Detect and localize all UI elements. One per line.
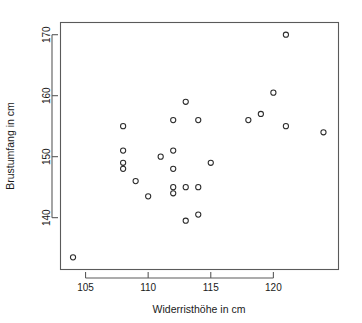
y-tick-label: 160 <box>41 87 52 104</box>
x-tick-label: 105 <box>77 282 94 293</box>
plot-canvas: 140150160170 105110115120 Widerristhöhe … <box>0 0 362 323</box>
y-tick-label: 140 <box>41 209 52 226</box>
y-tick-label: 170 <box>41 26 52 43</box>
y-tick-label: 150 <box>41 148 52 165</box>
scatter-plot-figure: 140150160170 105110115120 Widerristhöhe … <box>0 0 362 323</box>
y-axis-title: Brustumfang in cm <box>4 102 16 190</box>
x-tick-label: 115 <box>203 282 219 293</box>
x-axis-title: Widerristhöhe in cm <box>153 303 246 315</box>
figure-background <box>0 0 362 323</box>
x-tick-label: 120 <box>265 282 282 293</box>
x-tick-label: 110 <box>140 282 156 293</box>
